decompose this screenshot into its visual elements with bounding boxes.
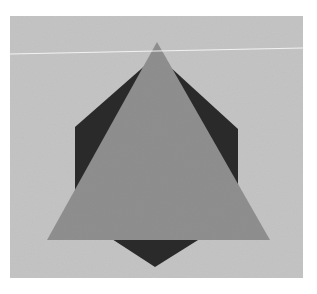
geometric-shapes-photo (0, 0, 317, 294)
image-stage (0, 0, 317, 294)
